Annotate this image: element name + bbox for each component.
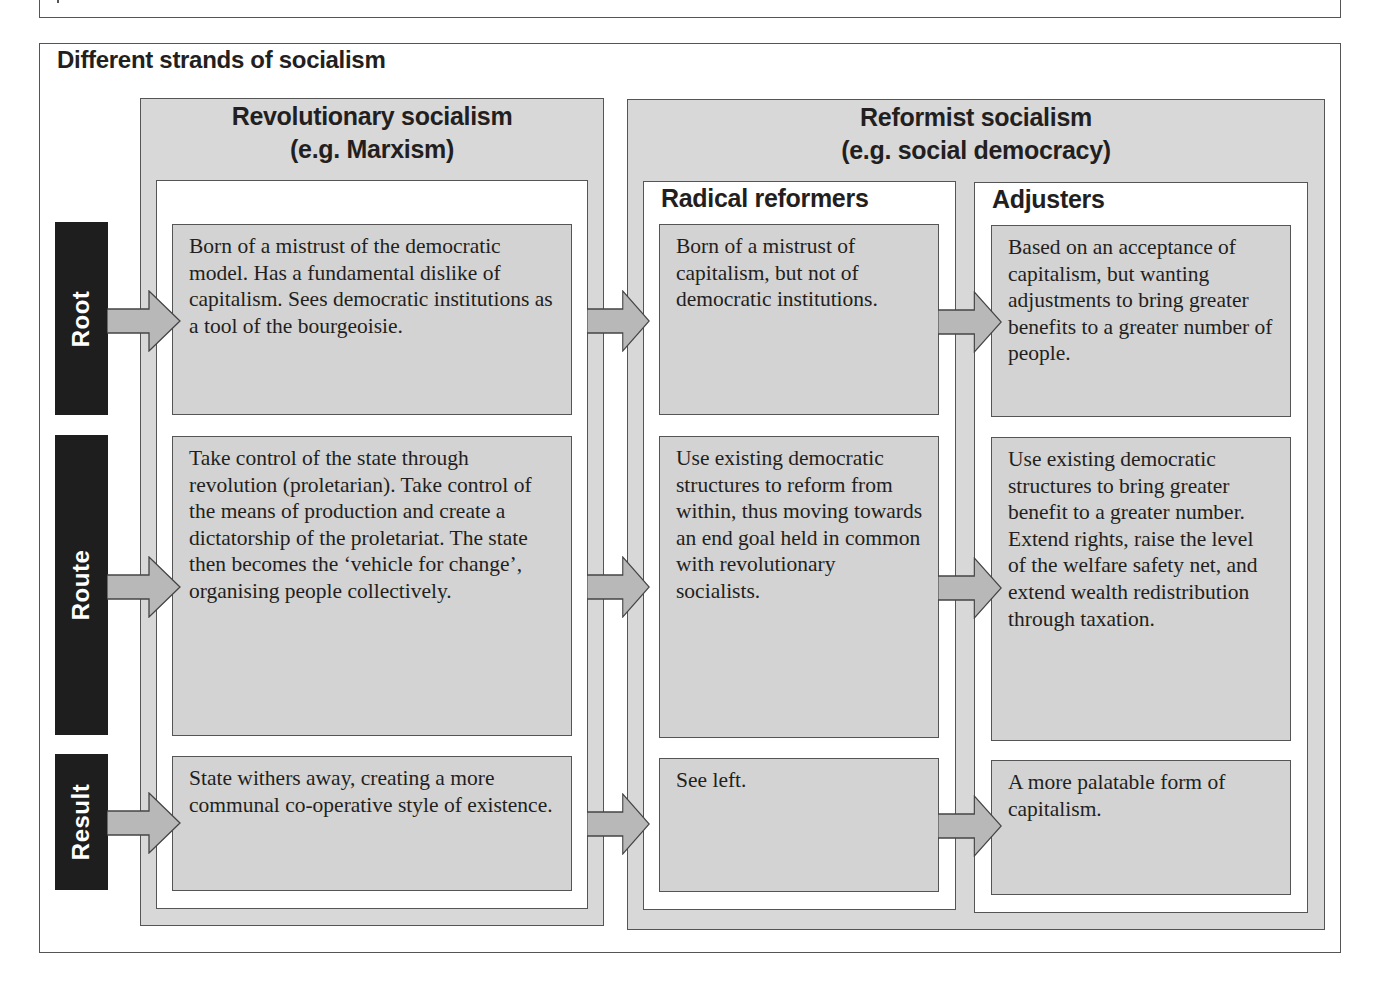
row-label-result: Result <box>55 754 108 890</box>
figure-title: Different strands of socialism <box>57 46 385 74</box>
previous-section-box <box>39 0 1341 18</box>
radical-root-cell: Born of a mistrust of capitalism, but no… <box>659 224 939 415</box>
adjusters-root-cell: Based on an acceptance of capitalism, bu… <box>991 225 1291 417</box>
adjusters-title: Adjusters <box>992 185 1105 214</box>
row-label-root: Root <box>55 222 108 415</box>
row-label-route-text: Route <box>68 550 96 621</box>
revolutionary-root-cell: Born of a mistrust of the democratic mod… <box>172 224 572 415</box>
row-label-root-text: Root <box>68 290 96 347</box>
radical-result-cell: See left. <box>659 758 939 892</box>
adjusters-result-cell: A more palatable form of capitalism. <box>991 760 1291 895</box>
row-label-route: Route <box>55 435 108 735</box>
adjusters-route-cell: Use existing democratic structures to br… <box>991 437 1291 741</box>
reformist-title: Reformist socialism (e.g. social democra… <box>627 101 1325 167</box>
revolutionary-title-line1: Revolutionary socialism <box>140 100 604 133</box>
radical-route-cell: Use existing democratic structures to re… <box>659 436 939 738</box>
reformist-title-line2: (e.g. social democracy) <box>627 134 1325 167</box>
revolutionary-title-line2: (e.g. Marxism) <box>140 133 604 166</box>
row-label-result-text: Result <box>68 784 96 860</box>
revolutionary-result-cell: State withers away, creating a more comm… <box>172 756 572 891</box>
text-fragment <box>57 0 59 3</box>
radical-reformers-title: Radical reformers <box>661 184 869 213</box>
revolutionary-route-cell: Take control of the state through revolu… <box>172 436 572 736</box>
reformist-title-line1: Reformist socialism <box>627 101 1325 134</box>
revolutionary-title: Revolutionary socialism (e.g. Marxism) <box>140 100 604 166</box>
